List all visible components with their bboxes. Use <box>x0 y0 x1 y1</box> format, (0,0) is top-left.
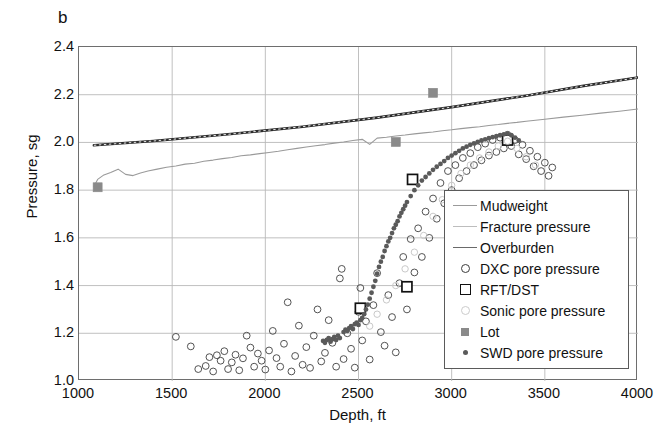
legend-marker-open-circle-icon <box>450 264 480 273</box>
legend-marker-line-icon <box>450 247 480 248</box>
series-mudweight <box>94 109 638 187</box>
y-tick-label: 2.4 <box>32 38 74 54</box>
x-tick-label: 1500 <box>141 385 201 401</box>
legend-label: Overburden <box>480 241 554 255</box>
legend-marker-light-circle-icon <box>450 306 480 315</box>
legend-item: DXC pore pressure <box>450 258 623 279</box>
legend-swatch <box>461 264 470 273</box>
legend-swatch <box>461 328 469 336</box>
legend-item: SWD pore pressure <box>450 342 623 363</box>
legend-marker-line-icon <box>450 226 480 227</box>
x-axis-ticks: 1000150020002500300035004000 <box>78 385 637 407</box>
legend-marker-filled-square-icon <box>450 328 480 336</box>
x-tick-label: 3000 <box>421 385 481 401</box>
legend-swatch <box>453 205 477 206</box>
y-axis-title: Pressure, sg <box>23 102 40 252</box>
y-tick-label: 2.2 <box>32 86 74 102</box>
legend-swatch <box>463 350 468 355</box>
x-tick-label: 4000 <box>607 385 667 401</box>
legend-label: Lot <box>480 325 499 339</box>
legend-item: Overburden <box>450 237 623 258</box>
legend-marker-open-square-icon <box>450 284 480 295</box>
legend-marker-filled-dot-icon <box>450 350 480 355</box>
legend-item: Sonic pore pressure <box>450 300 623 321</box>
legend-label: Mudweight <box>480 199 548 213</box>
panel-label: b <box>58 8 67 28</box>
x-tick-label: 2500 <box>328 385 388 401</box>
x-tick-label: 1000 <box>48 385 108 401</box>
y-tick-label: 1.2 <box>32 324 74 340</box>
x-tick-label: 2000 <box>234 385 294 401</box>
legend-item: RFT/DST <box>450 279 623 300</box>
series-overburden <box>94 78 638 146</box>
legend-label: SWD pore pressure <box>480 346 603 360</box>
legend-item: Lot <box>450 321 623 342</box>
legend-label: RFT/DST <box>480 283 539 297</box>
legend-swatch <box>461 306 470 315</box>
legend-swatch <box>453 226 477 227</box>
x-tick-label: 3500 <box>514 385 574 401</box>
series-fracture-pressure <box>94 78 638 145</box>
legend-label: Fracture pressure <box>480 220 590 234</box>
legend-item: Fracture pressure <box>450 216 623 237</box>
figure-panel: { "panel_label": "b", "chart_data": { "t… <box>0 0 668 430</box>
y-tick-label: 1.4 <box>32 277 74 293</box>
chart-legend: MudweightFracture pressureOverburdenDXC … <box>444 190 629 369</box>
legend-swatch <box>453 247 477 248</box>
x-axis-title: Depth, ft <box>78 406 637 423</box>
legend-item: Mudweight <box>450 195 623 216</box>
legend-label: DXC pore pressure <box>480 262 600 276</box>
legend-swatch <box>460 284 471 295</box>
legend-label: Sonic pore pressure <box>480 304 605 318</box>
legend-marker-line-icon <box>450 205 480 206</box>
